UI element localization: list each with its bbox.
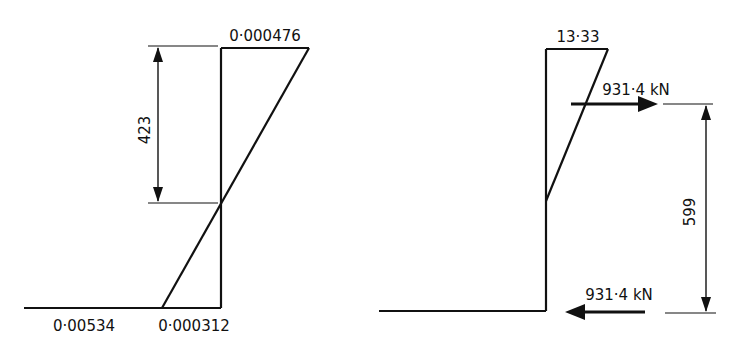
diagram-canvas: 423 0·000476 0·00534 0·000312 13·33 931·… (0, 0, 742, 346)
strain-profile-line (162, 48, 309, 308)
steel-strain-label: 0·00534 (53, 317, 115, 335)
tension-force-label: 931·4 kN (585, 286, 653, 304)
tension-force: 931·4 kN (565, 286, 653, 320)
top-stress-label: 13·33 (557, 28, 600, 46)
top-strain-label: 0·000476 (229, 27, 301, 45)
compression-force: 931·4 kN (571, 81, 670, 112)
arrow-up-icon (153, 47, 163, 62)
strain-diagram: 423 0·000476 0·00534 0·000312 (24, 27, 309, 335)
arrow-down-icon (701, 297, 711, 312)
neutral-axis-dimension: 423 (136, 46, 218, 203)
arrow-left-icon (565, 304, 585, 320)
neutral-axis-depth-label: 423 (136, 116, 154, 145)
compression-force-label: 931·4 kN (602, 81, 670, 99)
arrow-up-icon (701, 105, 711, 120)
bottom-strain-label: 0·000312 (158, 317, 230, 335)
lever-arm-dimension: 599 (663, 104, 716, 313)
arrow-down-icon (153, 187, 163, 202)
lever-arm-label: 599 (681, 198, 699, 227)
stress-diagram: 13·33 931·4 kN 931·4 kN 599 (379, 28, 716, 320)
stress-profile-line (546, 49, 608, 201)
